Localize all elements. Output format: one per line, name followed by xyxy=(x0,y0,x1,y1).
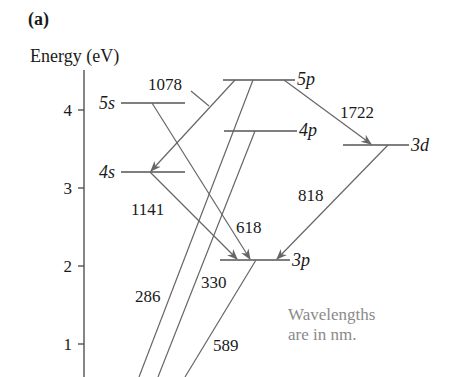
wavelength-818: 818 xyxy=(298,187,324,204)
y-axis-label: Energy (eV) xyxy=(30,47,119,65)
tick-1: 1 xyxy=(58,336,72,353)
label-4p: 4p xyxy=(299,121,317,139)
panel-label: (a) xyxy=(28,10,49,28)
energy-axis xyxy=(78,70,84,377)
leader-1078 xyxy=(191,91,209,106)
transition-330 xyxy=(158,131,255,377)
label-3p: 3p xyxy=(292,251,310,269)
units-note: Wavelengths are in nm. xyxy=(288,305,375,345)
label-3d: 3d xyxy=(411,136,429,154)
label-5s: 5s xyxy=(99,94,115,112)
units-note-line1: Wavelengths xyxy=(288,305,375,325)
tick-3: 3 xyxy=(58,180,72,197)
wavelength-1141: 1141 xyxy=(131,201,164,218)
wavelength-330: 330 xyxy=(201,274,227,291)
energy-level-diagram: (a) Energy (eV) 4 3 2 1 5s 4s 5p 4p 3d 3… xyxy=(0,0,456,377)
wavelength-1078: 1078 xyxy=(148,76,182,93)
transition-818 xyxy=(277,145,388,259)
tick-4: 4 xyxy=(58,102,72,119)
label-4s: 4s xyxy=(99,163,115,181)
wavelength-618: 618 xyxy=(236,219,262,236)
wavelength-286: 286 xyxy=(135,288,161,305)
units-note-line2: are in nm. xyxy=(288,325,375,345)
tick-2: 2 xyxy=(58,258,72,275)
label-5p: 5p xyxy=(297,70,315,88)
wavelength-1722: 1722 xyxy=(340,104,374,121)
wavelength-589: 589 xyxy=(213,337,239,354)
